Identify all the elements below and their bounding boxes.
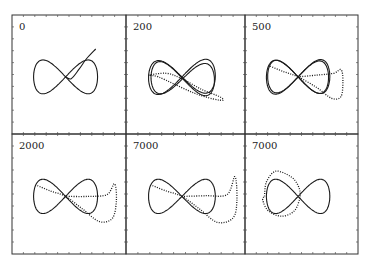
panel-label: 2000 [19, 140, 44, 151]
panel-frame [126, 15, 245, 134]
panel-label: 7000 [252, 140, 277, 151]
series-transient [270, 66, 343, 99]
series-figure-eight [34, 60, 98, 94]
figure: 0200500200070007000 [0, 0, 368, 263]
panel-label: 7000 [133, 140, 158, 151]
panel-frame [245, 15, 358, 134]
panel-frame [245, 134, 358, 254]
series-transient [37, 184, 116, 222]
panel-1: 200 [126, 15, 245, 134]
panel-label: 200 [133, 21, 152, 32]
series-transient [149, 73, 224, 100]
panel-4: 7000 [126, 134, 245, 254]
series-orbit-a [149, 59, 216, 94]
panel-3: 2000 [12, 134, 126, 254]
panel-label: 0 [19, 21, 25, 32]
series-tail [66, 49, 96, 79]
panel-frame [12, 15, 126, 134]
panel-0: 0 [12, 15, 126, 134]
panel-2: 500 [245, 15, 358, 134]
panel-label: 500 [252, 21, 271, 32]
series-transient [153, 177, 237, 223]
panel-frame [12, 134, 126, 254]
panel-5: 7000 [245, 134, 358, 254]
series-orbit [34, 179, 98, 213]
series-transient [263, 171, 301, 216]
